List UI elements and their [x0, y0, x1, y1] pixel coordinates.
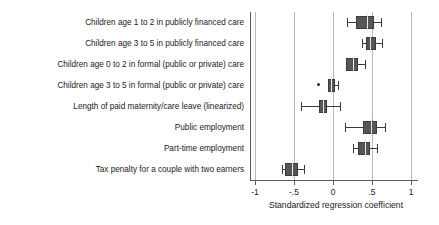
box-row — [250, 160, 418, 179]
outlier-point — [317, 83, 320, 86]
category-label-4: Length of paid maternity/care leave (lin… — [73, 102, 244, 112]
median-line — [365, 140, 366, 157]
whisker-high-cap — [304, 165, 305, 174]
box-row — [250, 13, 418, 32]
median-line — [367, 14, 368, 31]
median-line — [353, 56, 354, 73]
box-row — [250, 76, 418, 95]
whisker-low-cap — [345, 123, 346, 132]
category-axis-labels: Children age 1 to 2 in publicly financed… — [0, 0, 250, 180]
whisker-high-cap — [338, 81, 339, 90]
whisker-low-line — [301, 106, 319, 107]
whisker-high-cap — [340, 102, 341, 111]
boxplot-chart: Children age 1 to 2 in publicly financed… — [0, 0, 439, 225]
box-iqr — [358, 142, 370, 155]
category-label-0: Children age 1 to 2 in publicly financed… — [85, 18, 244, 28]
whisker-low-cap — [282, 165, 283, 174]
whisker-low-cap — [347, 18, 348, 27]
category-label-5: Public employment — [175, 123, 244, 133]
whisker-low-cap — [301, 102, 302, 111]
x-axis-title: Standardized regression coefficient — [250, 200, 422, 210]
category-label-7: Tax penalty for a couple with two earner… — [96, 165, 244, 175]
box-row — [250, 139, 418, 158]
category-label-6: Part-time employment — [164, 144, 244, 154]
category-label-2: Children age 0 to 2 in formal (public or… — [57, 60, 244, 70]
box-row — [250, 118, 418, 137]
whisker-high-line — [370, 148, 377, 149]
whisker-high-line — [377, 127, 385, 128]
tick-label-0: -1 — [251, 187, 259, 197]
category-label-1: Children age 3 to 5 in publicly financed… — [85, 39, 244, 49]
whisker-low-cap — [362, 39, 363, 48]
whisker-high-cap — [382, 39, 383, 48]
whisker-low-line — [345, 127, 363, 128]
median-line — [323, 98, 324, 115]
median-line — [370, 35, 371, 52]
category-label-3: Children age 3 to 5 in formal (public or… — [57, 81, 244, 91]
whisker-high-cap — [365, 60, 366, 69]
whisker-low-line — [347, 22, 356, 23]
tick-mark-3 — [372, 181, 373, 185]
tick-mark-4 — [411, 181, 412, 185]
box-iqr — [356, 16, 374, 29]
tick-label-1: -.5 — [289, 187, 299, 197]
box-row — [250, 97, 418, 116]
tick-label-3: .5 — [368, 187, 375, 197]
tick-mark-1 — [294, 181, 295, 185]
median-line — [371, 119, 372, 136]
median-line — [292, 161, 293, 178]
whisker-low-cap — [353, 144, 354, 153]
tick-label-2: 0 — [331, 187, 336, 197]
whisker-high-line — [374, 22, 381, 23]
median-line — [331, 77, 332, 94]
box-row — [250, 55, 418, 74]
box-row — [250, 34, 418, 53]
tick-label-4: 1 — [409, 187, 414, 197]
tick-mark-2 — [333, 181, 334, 185]
box-iqr — [366, 37, 376, 50]
whisker-high-cap — [381, 18, 382, 27]
whisker-high-cap — [377, 144, 378, 153]
whisker-high-line — [327, 106, 340, 107]
plot-area: -1-.50.51 — [250, 12, 418, 180]
axis-spine-bottom — [250, 180, 418, 181]
tick-mark-0 — [255, 181, 256, 185]
whisker-high-line — [358, 64, 365, 65]
whisker-high-cap — [385, 123, 386, 132]
